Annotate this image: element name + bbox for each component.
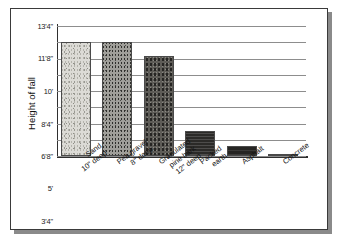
y-tick-label: 8'4" [41,119,53,128]
chart-screenshot: Height of fall 0"1'8"3'4"5'6'8"8'4"10'11… [0,0,345,246]
y-axis-title-text: Height of fall [26,77,37,130]
y-tick-label: 5' [48,184,53,193]
bar-pea-gravel[interactable] [102,42,132,156]
y-tick-label: 10' [44,87,53,96]
y-tick-label: 13'4" [37,22,53,31]
y-tick-label: 11'8" [38,54,53,63]
y-tick-label: 6'8" [41,152,53,161]
bar-sand[interactable] [61,42,91,156]
bar-pine-bark[interactable] [144,56,174,156]
y-axis-title: Height of fall [24,53,38,153]
x-axis-category-labels: Sand10" deepPea gravel8" deepGranulatedp… [57,159,308,239]
chart-panel: Height of fall 0"1'8"3'4"5'6'8"8'4"10'11… [10,8,328,230]
y-tick-label: 3'4" [41,217,53,226]
plot-bars [57,26,306,156]
